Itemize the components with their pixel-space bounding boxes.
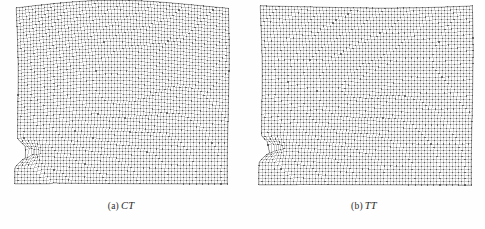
- subcaption-a: (a)CT: [0, 200, 242, 211]
- subcaption-a-symbol: CT: [119, 200, 134, 211]
- mesh-ct: [0, 0, 242, 192]
- subcaption-b-symbol: TT: [363, 200, 377, 211]
- figure-panel-a: (a)CT: [0, 0, 242, 229]
- subcaption-b: (b)TT: [243, 200, 485, 211]
- mesh-tt: [243, 0, 485, 192]
- figure-panel-b: (b)TT: [243, 0, 485, 229]
- subcaption-a-prefix: (a): [108, 201, 119, 211]
- mesh-gridline: [15, 0, 229, 184]
- figure-root: (a)CT (b)TT: [0, 0, 485, 229]
- mesh-gridline: [15, 0, 229, 184]
- mesh-boundary: [15, 0, 229, 184]
- subcaption-b-prefix: (b): [351, 201, 363, 211]
- mesh-container-tt: [243, 0, 485, 192]
- mesh-container-ct: [0, 0, 242, 192]
